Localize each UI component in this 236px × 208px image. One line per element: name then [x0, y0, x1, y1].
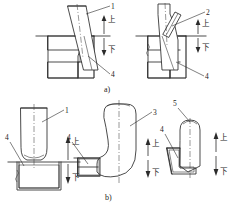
figure-b3: 5 4 上 下: [160, 99, 228, 178]
fig-b2-force-lower: 下: [152, 168, 160, 177]
fig-b3-force-arrow: 上 下: [214, 132, 228, 176]
caption-row-b: b): [105, 193, 112, 202]
fig-a1-callout-1: 1: [86, 2, 115, 14]
fig-a1-force-upper: 上: [108, 15, 116, 24]
fig-b2-callout-4-label: 4: [67, 133, 71, 142]
figure-a2: 2 4 上 下: [136, 3, 210, 81]
fig-b1-die-block: [16, 162, 62, 190]
drawing-sheet: 1 4 上 下: [0, 0, 236, 208]
fig-a2-force-lower: 下: [202, 43, 210, 52]
fig-b1-force-upper: 上: [72, 137, 80, 146]
caption-row-a: a): [104, 85, 111, 94]
fig-b2-force-arrow: 上 下: [146, 138, 160, 178]
fig-b3-callout-5: 5: [173, 99, 190, 122]
fig-b2-forging: [97, 104, 136, 177]
figure-b2: 3 4 上 下: [67, 100, 160, 184]
fig-a2-force-upper: 上: [202, 19, 210, 28]
fig-b2-force-upper: 上: [152, 139, 160, 148]
fig-b2-die-flange: [78, 158, 100, 176]
fig-a1-callout-4-label: 4: [111, 70, 115, 79]
fig-a1-callout-1-label: 1: [111, 2, 115, 11]
fig-a2-callout-4-label: 4: [205, 72, 209, 81]
fig-b3-force-upper: 上: [220, 133, 228, 142]
fig-a2-callout-2-label: 2: [206, 8, 210, 17]
fig-b3-callout-5-label: 5: [173, 99, 177, 108]
fig-b1-hatch: [19, 165, 59, 188]
figure-a1: 1 4 上 下: [36, 2, 116, 79]
fig-b3-force-lower: 下: [220, 167, 228, 176]
fig-b3-callout-4-label: 4: [160, 125, 164, 134]
fig-b1-callout-1-label: 1: [65, 106, 69, 115]
fig-b1-callout-4-label: 4: [5, 133, 9, 142]
fig-a1-force-arrow: 上 下: [102, 15, 116, 56]
fig-a1-force-lower: 下: [108, 45, 116, 54]
drawing-canvas: 1 4 上 下: [0, 0, 236, 208]
figure-b1: 1 4 上 下: [5, 104, 80, 190]
fig-b2-callout-3-label: 3: [153, 108, 157, 117]
fig-b3-callout-4: 4: [160, 125, 178, 158]
